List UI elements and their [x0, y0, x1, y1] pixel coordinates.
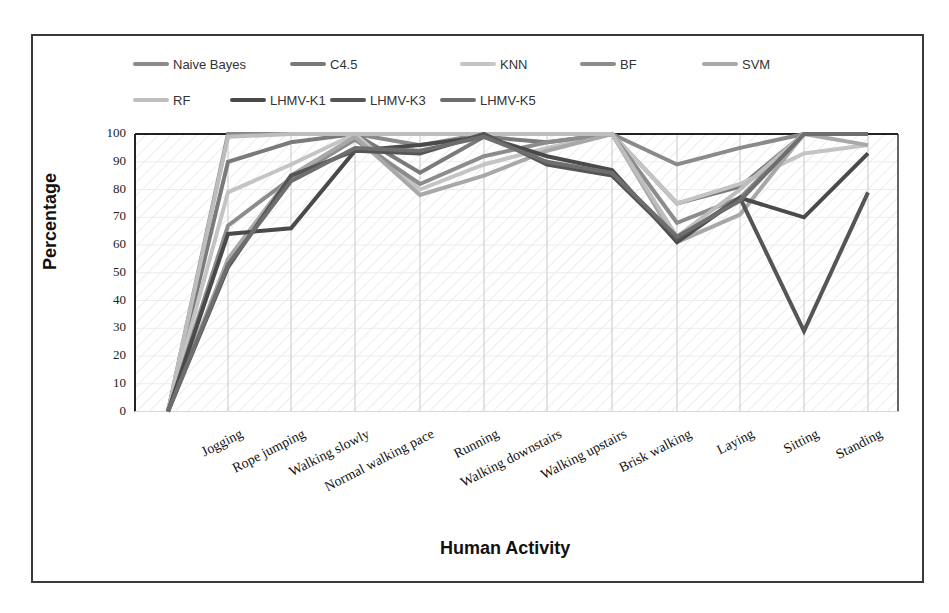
y-tick-label: 90 — [96, 153, 126, 169]
y-tick-label: 10 — [96, 375, 126, 391]
plot-area — [0, 0, 949, 613]
y-tick-label: 0 — [96, 403, 126, 419]
y-tick-label: 80 — [96, 181, 126, 197]
y-tick-label: 30 — [96, 319, 126, 335]
y-tick-label: 40 — [96, 292, 126, 308]
y-axis-title: Percentage — [40, 173, 61, 270]
y-tick-label: 60 — [96, 236, 126, 252]
x-axis-title: Human Activity — [440, 538, 570, 559]
y-tick-label: 100 — [96, 125, 126, 141]
y-tick-label: 20 — [96, 347, 126, 363]
y-tick-label: 50 — [96, 264, 126, 280]
y-tick-label: 70 — [96, 208, 126, 224]
